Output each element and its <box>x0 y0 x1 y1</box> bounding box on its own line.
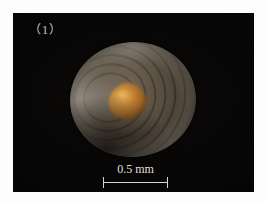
scale-bar-cap-left <box>103 177 104 188</box>
scale-bar-cap-right <box>167 177 168 188</box>
micrograph-photo-panel: （1） <box>13 13 254 192</box>
figure-root: （1） <box>0 0 267 203</box>
panel-number-label: （1） <box>29 24 62 36</box>
scale-bar-label: 0.5 mm <box>103 163 168 175</box>
scale-bar: 0.5 mm <box>103 163 168 192</box>
scale-bar-line <box>103 182 168 183</box>
specimen-image <box>66 38 200 162</box>
